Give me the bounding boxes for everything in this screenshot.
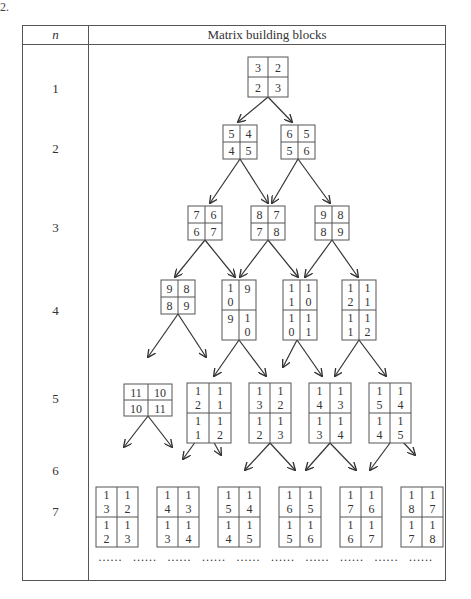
matrix-cell-value: 1 [430,518,436,532]
matrix-cell-value: 4 [246,127,252,141]
matrix-block: 3223 [248,57,288,97]
arrow [298,159,330,203]
matrix-cell-value: 5 [246,144,252,158]
matrix-cell-value: 1 [217,398,223,412]
matrix-block: 9889 [161,280,195,314]
arrow [124,416,148,447]
matrix-cell-value: 8 [167,299,173,313]
arrow [305,240,332,277]
matrix-cell-value: 1 [186,518,192,532]
arrow [297,340,322,376]
matrix-cell-value: 1 [348,325,354,339]
matrix-cell-value: 5 [287,532,293,546]
matrix-cell-value: 3 [257,398,263,412]
matrix-cell-value: 4 [186,532,192,546]
arrow [283,340,297,367]
matrix-block: 15141415 [369,383,411,443]
matrix-cell-value: 9 [321,208,327,222]
matrix-block: 18171718 [401,487,443,547]
arrow [335,340,359,376]
matrix-cell-value: 8 [274,225,280,239]
matrix-block: 13121213 [249,383,291,443]
matrix-cell-value: 0 [245,325,251,339]
matrix-block: 7667 [188,206,222,240]
matrix-cell-value: 0 [228,295,234,309]
matrix-cell-value: 4 [226,532,232,546]
matrix-cell-value: 8 [430,532,436,546]
matrix-cell-value: 1 [257,414,263,428]
matrix-cell-value: 2 [275,61,281,75]
matrix-cell-value: 1 [289,311,295,325]
matrix-cell-value: 1 [195,428,201,442]
ellipsis-row: …………………………………………………… [98,550,433,564]
matrix-cell-value: 6 [211,208,217,222]
matrix-cell-value: 8 [257,208,263,222]
matrix-cell-value: 5 [377,398,383,412]
matrix-cell-value: 6 [369,502,375,516]
block-tree-diagram: 3223544565567667877898899889109910111010… [0,0,471,599]
matrix-cell-value: 1 [125,518,131,532]
matrix-cell-value: 5 [308,502,314,516]
matrix-block: 5445 [223,125,257,159]
matrix-cell-value: 3 [186,502,192,516]
matrix-cell-value: 1 [104,518,110,532]
arrow [238,97,268,122]
ellipsis: …… [236,550,260,564]
matrix-block: 13121213 [96,487,138,547]
matrix-block: 17161617 [340,487,382,547]
matrix-cell-value: 1 [369,488,375,502]
matrix-cell-value: 1 [226,518,232,532]
matrix-cell-value: 4 [317,398,323,412]
matrix-cell-value: 4 [338,428,344,442]
ellipsis: …… [98,550,122,564]
matrix-cell-value: 4 [229,144,235,158]
arrow [272,159,298,203]
matrix-cell-value: 2 [195,398,201,412]
matrix-block: 11101011 [283,280,317,340]
matrix-cell-value: 1 [377,384,383,398]
arrow [270,443,295,470]
matrix-cell-value: 1 [338,414,344,428]
matrix-cell-value: 5 [247,532,253,546]
matrix-cell-value: 1 [289,295,295,309]
matrix-cell-value: 4 [398,398,404,412]
ellipsis: …… [305,550,329,564]
matrix-cell-value: 3 [165,532,171,546]
matrix-cell-value: 6 [287,127,293,141]
matrix-cell-value: 1 [369,518,375,532]
ellipsis: …… [202,550,226,564]
matrix-cell-value: 9 [245,282,251,296]
matrix-cell-value: 3 [255,61,261,75]
matrix-cell-value: 1 [365,311,371,325]
matrix-cell-value: 1 [257,384,263,398]
arrow [148,314,178,357]
matrix-block: 109910 [222,280,256,340]
arrow [205,240,235,277]
matrix-cell-value: 1 [247,488,253,502]
matrix-cell-value: 1 [409,518,415,532]
arrow [240,240,268,277]
matrix-cell-value: 1 [306,281,312,295]
arrow [268,240,298,277]
arrow [370,443,390,470]
matrix-cell-value: 11 [154,402,166,416]
matrix-cell-value: 1 [287,518,293,532]
matrix-cell-value: 1 [195,414,201,428]
ellipsis: …… [409,550,433,564]
matrix-cell-value: 1 [430,488,436,502]
arrow [245,443,270,470]
matrix-cell-value: 1 [125,488,131,502]
matrix-cell-value: 7 [409,532,415,546]
matrix-cell-value: 4 [247,502,253,516]
matrix-cell-value: 6 [308,532,314,546]
matrix-cell-value: 1 [377,414,383,428]
matrix-cell-value: 1 [348,281,354,295]
matrix-cell-value: 6 [304,144,310,158]
matrix-cell-value: 1 [308,488,314,502]
matrix-cell-value: 7 [194,208,200,222]
blocks: 3223544565567667877898899889109910111010… [96,57,443,547]
matrix-cell-value: 1 [348,311,354,325]
matrix-cell-value: 2 [257,428,263,442]
matrix-cell-value: 6 [348,532,354,546]
matrix-cell-value: 1 [317,414,323,428]
